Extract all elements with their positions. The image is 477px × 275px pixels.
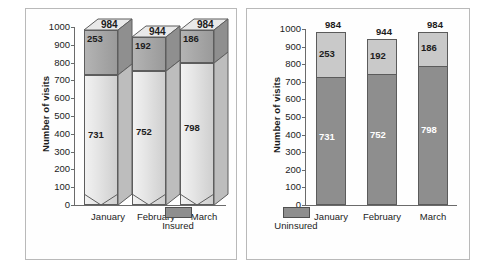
legend-label-uninsured: Uninsured [261,221,331,231]
bar-lower-value-label: 798 [421,125,437,135]
bar-total-label: 984 [318,20,348,30]
bar-lower-value-label: 798 [184,123,200,133]
legend-label-insured: Insured [148,221,208,231]
left-chart-panel: Number of visits 10009008007006005004003… [25,8,237,260]
bar-february [367,39,397,205]
bar-segment-insured [132,71,166,205]
bar-lower-value-label: 752 [370,130,386,140]
bar-lower-value-label: 731 [88,130,104,140]
bar-lower-value-label: 752 [136,127,152,137]
bar-3d-foot [132,194,182,208]
bar-upper-value-label: 253 [87,34,103,44]
bar-total-label: 984 [197,20,214,30]
bar-total-label: 944 [149,27,166,37]
bar-upper-value-label: 186 [421,43,437,53]
bar-segment-insured [180,63,214,205]
bar-segment-insured [84,75,118,205]
legend-swatch-uninsured [283,207,310,218]
x-axis-label-march: March [406,212,460,222]
bar-upper-value-label: 186 [183,34,199,44]
bar-upper-value-label: 253 [319,49,335,59]
right-chart-panel: Number of visits 10009008007006005004003… [246,8,470,260]
left-legend: Insured [148,207,208,231]
legend-swatch-insured [165,207,192,218]
bar-3d-foot [84,194,134,208]
bar-upper-value-label: 192 [135,41,151,51]
bar-total-label: 984 [420,20,450,30]
bar-segment-divider [368,74,396,75]
bar-total-label: 944 [369,27,399,37]
bar-segment-divider [419,66,447,67]
bar-total-label: 984 [101,20,118,30]
bar-segment-divider [317,77,345,78]
bar-lower-value-label: 731 [319,132,335,142]
right-legend: Uninsured [261,207,331,231]
bar-3d-foot [180,194,230,208]
x-axis-label-february: February [355,212,409,222]
bar-upper-value-label: 192 [370,51,386,61]
bar-march [418,32,448,205]
